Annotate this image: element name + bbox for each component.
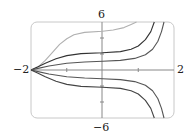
curve-4-line — [31, 70, 164, 118]
curve-3-line — [31, 22, 164, 70]
y-min-label: −6 — [93, 122, 109, 133]
x-max-label: 2 — [177, 64, 184, 75]
curve-2-line — [31, 22, 154, 70]
y-max-label: 6 — [98, 9, 105, 20]
x-min-label: −2 — [13, 64, 29, 75]
curve-5-line — [31, 70, 154, 118]
